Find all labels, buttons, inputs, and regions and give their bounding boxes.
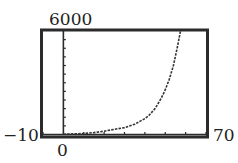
function-curve xyxy=(63,31,180,134)
graph-frame xyxy=(42,30,208,137)
graph-window xyxy=(0,0,238,163)
axes xyxy=(43,31,206,135)
